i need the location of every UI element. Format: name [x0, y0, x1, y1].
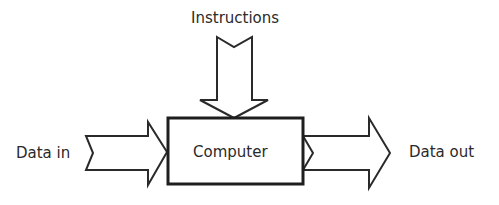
data-out-label: Data out	[409, 145, 474, 160]
instructions-label: Instructions	[191, 11, 279, 26]
data-out-arrow	[303, 118, 390, 188]
computer-label: Computer	[193, 145, 268, 160]
instructions-arrow	[200, 37, 268, 118]
data-in-label: Data in	[16, 146, 70, 161]
data-in-arrow	[86, 122, 167, 185]
computer-block-diagram	[0, 0, 499, 205]
